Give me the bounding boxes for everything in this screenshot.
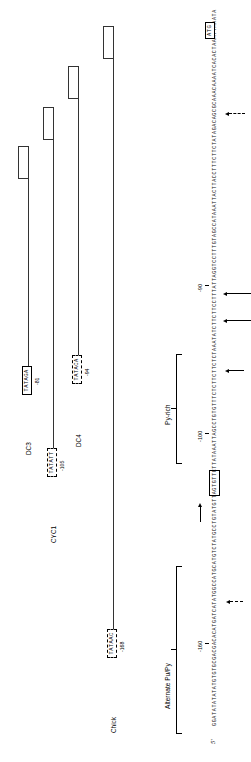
tick-label--160: -160: [197, 641, 203, 652]
comparison-motif-chick: TATAAC: [107, 629, 118, 658]
tick-mark--100: [205, 433, 209, 434]
bracket-cap-left: [176, 733, 182, 734]
comparison-line-cyc1: [78, 66, 79, 369]
comparison-line-chick: [113, 26, 114, 643]
bracket-stem: [171, 649, 176, 650]
region-label-py-rich: Py-rich: [164, 404, 171, 425]
tata-element-box: [209, 470, 220, 496]
comparison-cap-dc4-2: [43, 139, 54, 140]
comparison-position-dc3: -81: [34, 378, 40, 386]
comparison-name-chick: Chick: [110, 717, 117, 733]
bracket-cap-right: [176, 566, 182, 567]
comparison-topbar-chick: [103, 26, 104, 59]
bracket-cap-right: [176, 354, 182, 355]
tick-mark--90: [205, 285, 209, 286]
arrow-shaft: [230, 601, 243, 602]
comparison-name-dc3: DC3: [25, 442, 32, 455]
figure-rotation-wrapper: 5' GGATATATATATGTGTGCGACGACACATGATCATATG…: [0, 0, 245, 762]
dna-sequence: GGATATATATATGTGTGCGACGACACATGATCATATGGCC…: [212, 9, 218, 726]
comparison-position-dc4: -105: [59, 461, 65, 471]
comparison-position-chick: -168: [119, 642, 125, 652]
comparison-position-cyc1: -94: [84, 369, 90, 377]
comparison-cap-dc4: [43, 107, 54, 108]
promoter-sequence-figure: 5' GGATATATATATGTGTGCGACGACACATGATCATATG…: [0, 0, 245, 762]
bracket-cap-left: [176, 463, 182, 464]
five-prime-marker: 5': [209, 739, 217, 744]
region-label-alternate-pupy: Alternate Pu/Py: [164, 663, 171, 709]
arrow-shaft: [227, 320, 245, 321]
comparison-motif-dc3: TATAGA: [22, 366, 33, 395]
arrow-shaft: [200, 506, 201, 522]
comparison-cap-chick: [103, 26, 114, 27]
tick-label--90: -90: [197, 284, 203, 292]
comparison-cap-chick-2: [103, 58, 114, 59]
comparison-name-dc4: CYC1: [50, 526, 57, 543]
comparison-cap-dc3-2: [18, 178, 29, 179]
bracket-stem: [171, 408, 176, 409]
comparison-topbar-dc4: [43, 107, 44, 140]
arrow-shaft: [229, 370, 244, 371]
comparison-cap-cyc1-2: [68, 98, 79, 99]
tick-label--100: -100: [197, 431, 203, 442]
comparison-line-dc3: [28, 146, 29, 380]
comparison-line-dc4: [53, 107, 54, 462]
arrow-shaft: [229, 113, 245, 114]
arrow-head-icon: [198, 503, 202, 507]
comparison-motif-dc4: TATATT: [47, 448, 58, 477]
bracket-bar: [176, 566, 177, 734]
arrow-shaft: [227, 293, 245, 294]
bracket-bar: [176, 354, 177, 464]
comparison-motif-cyc1: TATACA: [72, 355, 83, 384]
tick-mark--160: [205, 643, 209, 644]
comparison-cap-dc3: [18, 146, 29, 147]
comparison-name-cyc1: DC4: [75, 434, 82, 447]
atg-codon-box: ATG: [205, 22, 215, 39]
comparison-cap-cyc1: [68, 66, 79, 67]
comparison-topbar-cyc1: [68, 66, 69, 99]
comparison-topbar-dc3: [18, 146, 19, 179]
